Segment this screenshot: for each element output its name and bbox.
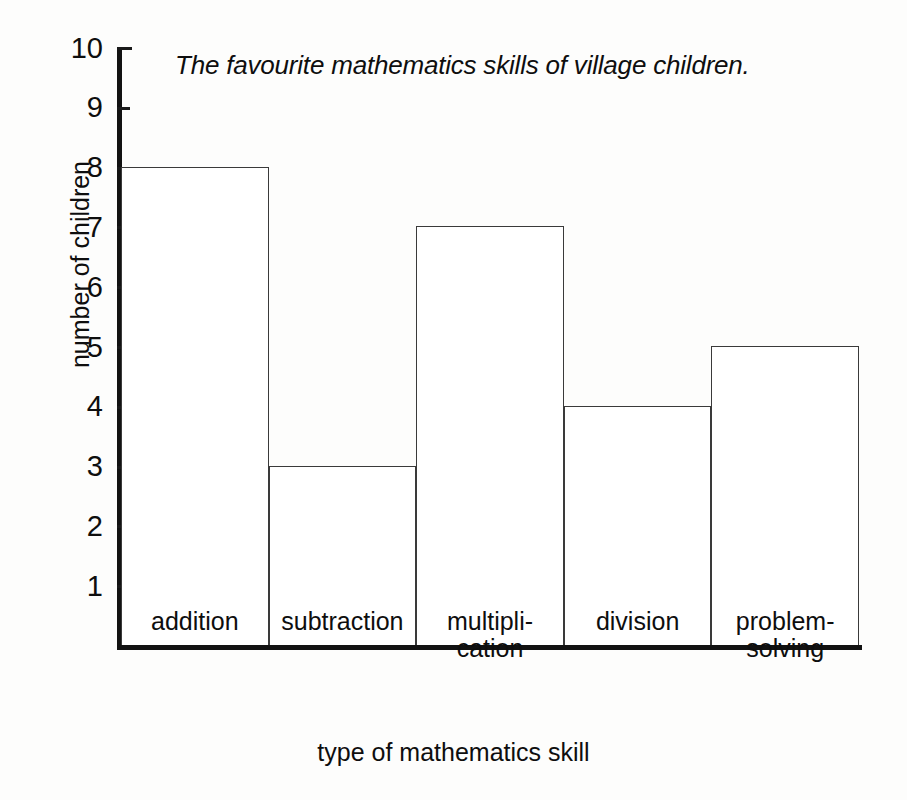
- plot-area: 12345678910: [121, 47, 859, 645]
- x-axis-title: type of mathematics skill: [0, 738, 907, 767]
- x-axis-tick-label-line2: cation: [416, 635, 564, 662]
- y-axis-tick-label: 2: [87, 512, 103, 541]
- y-axis-tick-label: 4: [87, 392, 103, 421]
- bar: [416, 226, 564, 645]
- x-axis-tick-label-line1: division: [596, 607, 679, 635]
- y-axis-tick: 9: [117, 107, 130, 110]
- chart-page: The favourite mathematics skills of vill…: [0, 0, 907, 800]
- x-axis-tick-label-line1: addition: [151, 607, 239, 635]
- bar: [121, 167, 269, 645]
- bar: [711, 346, 859, 645]
- x-axis-tick-label-line1: multipli-: [447, 607, 533, 635]
- y-axis-tick-label: 8: [87, 153, 103, 182]
- x-axis-tick-label: problem-solving: [711, 608, 859, 662]
- x-axis-tick-label: subtraction: [269, 608, 417, 635]
- y-axis-tick-label: 6: [87, 273, 103, 302]
- y-axis-tick: 10: [117, 47, 132, 50]
- x-axis-tick-label: division: [564, 608, 712, 635]
- y-axis-tick-label: 9: [87, 93, 103, 122]
- x-axis-tick-label: addition: [121, 608, 269, 635]
- x-axis-tick-label-line2: solving: [711, 635, 859, 662]
- y-axis-tick-label: 10: [71, 33, 103, 62]
- y-axis-tick-label: 7: [87, 213, 103, 242]
- x-axis-tick-label-line1: subtraction: [281, 607, 403, 635]
- y-axis-tick-label: 3: [87, 452, 103, 481]
- y-axis-tick-label: 5: [87, 332, 103, 361]
- y-axis-tick-label: 1: [87, 572, 103, 601]
- x-axis-tick-label: multipli-cation: [416, 608, 564, 662]
- x-axis-tick-label-line1: problem-: [736, 607, 835, 635]
